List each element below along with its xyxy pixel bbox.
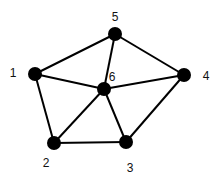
edge-3-4 — [126, 75, 184, 142]
edge-1-2 — [35, 74, 54, 143]
edge-6-3 — [104, 89, 126, 142]
node-label-2: 2 — [43, 156, 50, 170]
node-2 — [47, 136, 61, 150]
edge-1-5 — [35, 34, 115, 74]
edge-6-1 — [35, 74, 104, 89]
node-5 — [108, 27, 122, 41]
node-label-1: 1 — [10, 66, 17, 80]
edge-6-2 — [54, 89, 104, 143]
node-1 — [28, 67, 42, 81]
node-label-5: 5 — [112, 10, 119, 24]
node-4 — [177, 68, 191, 82]
edge-6-4 — [104, 75, 184, 89]
node-label-3: 3 — [127, 161, 134, 175]
node-3 — [119, 135, 133, 149]
node-label-6: 6 — [109, 70, 116, 84]
node-6 — [97, 82, 111, 96]
node-label-4: 4 — [203, 69, 210, 83]
edge-5-4 — [115, 34, 184, 75]
edge-2-3 — [54, 142, 126, 143]
graph-diagram: 123456 — [0, 0, 217, 180]
nodes — [28, 27, 191, 150]
